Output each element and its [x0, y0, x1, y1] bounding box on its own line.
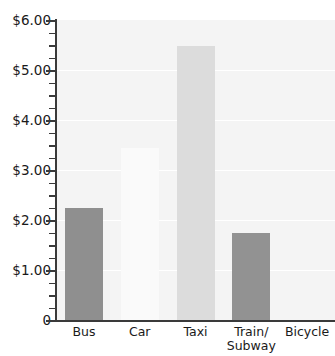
- y-tick-label: 0: [3, 312, 51, 328]
- y-tick-minor: [49, 45, 55, 47]
- y-tick-minor: [49, 258, 55, 260]
- y-tick-minor: [49, 108, 55, 110]
- y-tick-major: [46, 320, 55, 322]
- y-tick-label: $2.00: [3, 212, 51, 228]
- bar-taxi: [177, 46, 215, 320]
- y-tick-major: [46, 70, 55, 72]
- y-tick-minor: [49, 95, 55, 97]
- y-tick-minor: [49, 58, 55, 60]
- plot-area: [56, 20, 335, 320]
- bar-bus: [65, 208, 103, 321]
- y-tick-minor: [49, 158, 55, 160]
- x-tick-label: Bicycle: [279, 325, 335, 339]
- x-tick-label: Train/ Subway: [223, 325, 279, 353]
- bar-chart: 0$1.00$2.00$3.00$4.00$5.00$6.00 BusCarTa…: [0, 0, 335, 356]
- x-tick-label: Car: [112, 325, 168, 339]
- y-tick-label: $5.00: [3, 62, 51, 78]
- y-tick-minor: [49, 283, 55, 285]
- y-tick-minor: [49, 145, 55, 147]
- y-tick-major: [46, 20, 55, 22]
- y-tick-minor: [49, 83, 55, 85]
- x-axis-line: [55, 320, 335, 322]
- y-tick-label: $3.00: [3, 162, 51, 178]
- y-axis-labels: 0$1.00$2.00$3.00$4.00$5.00$6.00: [0, 0, 51, 356]
- y-tick-minor: [49, 33, 55, 35]
- y-tick-minor: [49, 245, 55, 247]
- y-tick-major: [46, 120, 55, 122]
- y-tick-minor: [49, 308, 55, 310]
- y-axis-line: [55, 19, 57, 321]
- y-tick-major: [46, 220, 55, 222]
- y-tick-minor: [49, 295, 55, 297]
- y-tick-major: [46, 170, 55, 172]
- bar-car: [121, 148, 159, 321]
- y-tick-label: $6.00: [3, 12, 51, 28]
- y-tick-minor: [49, 183, 55, 185]
- y-tick-label: $1.00: [3, 262, 51, 278]
- x-tick-label: Bus: [56, 325, 112, 339]
- y-tick-major: [46, 270, 55, 272]
- y-tick-minor: [49, 195, 55, 197]
- y-tick-minor: [49, 233, 55, 235]
- x-tick-label: Taxi: [168, 325, 224, 339]
- bar-train-subway: [232, 233, 270, 321]
- y-tick-minor: [49, 208, 55, 210]
- y-tick-label: $4.00: [3, 112, 51, 128]
- y-tick-minor: [49, 133, 55, 135]
